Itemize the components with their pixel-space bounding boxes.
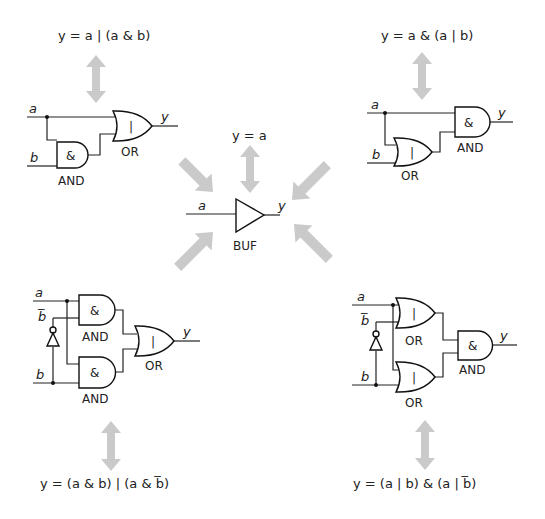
or-symbol: | xyxy=(129,120,133,134)
formula-bottom-right: y = (a | b) & (a | b̅) xyxy=(353,476,476,491)
input-b: b xyxy=(36,367,44,382)
double-arrow-top-left xyxy=(86,55,106,103)
and-label: AND xyxy=(82,392,108,406)
and-label: AND xyxy=(457,141,483,155)
input-b-bar: b̅ xyxy=(38,309,47,324)
diag-arrow-bottom-left xyxy=(169,224,221,276)
input-a: a xyxy=(371,97,379,112)
input-b: b xyxy=(30,150,38,165)
diag-arrow-top-right xyxy=(284,156,336,208)
and-symbol: & xyxy=(464,116,473,130)
or-label: OR xyxy=(405,334,423,348)
not-gate xyxy=(47,333,59,346)
output-y: y xyxy=(182,324,191,339)
output-y: y xyxy=(499,328,508,343)
and-label: AND xyxy=(58,174,84,188)
not-gate xyxy=(370,337,382,350)
formula-center: y = a xyxy=(232,128,267,143)
double-arrow-center xyxy=(240,145,260,193)
and-symbol: & xyxy=(66,149,75,163)
buffer-gate xyxy=(236,199,264,232)
or-symbol: | xyxy=(412,371,416,385)
formula-bottom-left: y = (a & b) | (a & b̅) xyxy=(40,476,169,491)
and-symbol: & xyxy=(90,366,99,380)
diag-arrow-top-left xyxy=(173,152,221,200)
or-label: OR xyxy=(145,359,163,373)
or-symbol: | xyxy=(151,335,155,349)
double-arrow-bottom-left xyxy=(101,421,121,471)
or-label: OR xyxy=(405,396,423,410)
and-label: AND xyxy=(82,330,108,344)
input-a: a xyxy=(198,198,206,213)
and-label: AND xyxy=(459,363,485,377)
output-y: y xyxy=(497,105,506,120)
or-label: OR xyxy=(401,169,419,183)
diagram-canvas: y = a | (a & b) & AND | OR a b y y = a &… xyxy=(0,0,545,519)
input-a: a xyxy=(29,101,37,116)
and-symbol: & xyxy=(468,339,477,353)
or-symbol: | xyxy=(412,307,416,321)
formula-top-left: y = a | (a & b) xyxy=(58,28,150,43)
circuit-bottom-right: | OR | OR & AND a b̅ b y y = (a | b) & (… xyxy=(352,289,517,491)
diag-arrow-bottom-right xyxy=(286,216,338,268)
input-a: a xyxy=(35,285,43,300)
or-symbol: | xyxy=(410,146,414,160)
formula-top-right: y = a & (a | b) xyxy=(381,28,473,43)
input-b-bar: b̅ xyxy=(361,313,370,328)
input-b: b xyxy=(372,147,380,162)
circuit-top-left: y = a | (a & b) & AND | OR a b y xyxy=(27,28,178,188)
input-a: a xyxy=(357,289,365,304)
or-label: OR xyxy=(121,145,139,159)
input-b: b xyxy=(361,369,369,384)
buf-label: BUF xyxy=(233,239,257,253)
and-symbol: & xyxy=(90,304,99,318)
double-arrow-bottom-right xyxy=(415,420,435,470)
output-y: y xyxy=(160,109,169,124)
double-arrow-top-right xyxy=(412,52,432,100)
output-y: y xyxy=(277,198,286,213)
circuit-top-right: y = a & (a | b) | OR & AND a b y xyxy=(367,28,513,183)
